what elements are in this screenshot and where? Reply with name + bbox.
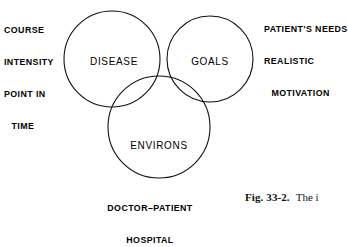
annotation-right-line-3: MOTIVATION: [264, 88, 348, 99]
annotation-left-line-2: INTENSITY: [4, 57, 54, 68]
annotation-right-line-1: PATIENT'S NEEDS: [264, 24, 348, 35]
annotation-left-line-3: POINT IN: [4, 89, 54, 100]
annotation-bottom-line-2: HOSPITAL: [91, 235, 208, 246]
annotation-bottom: DOCTOR–PATIENT HOSPITAL: [91, 182, 208, 247]
circle-label-disease: DISEASE: [90, 55, 138, 67]
figure-caption: Fig. 33-2.The i: [245, 191, 319, 204]
annotation-right: PATIENT'S NEEDS REALISTIC MOTIVATION: [264, 3, 348, 120]
circle-label-goals: GOALS: [191, 55, 229, 67]
annotation-left-line-4: TIME: [4, 121, 54, 132]
circle-environs: [108, 76, 210, 178]
annotation-right-line-2: REALISTIC: [264, 56, 348, 67]
annotation-bottom-line-1: DOCTOR–PATIENT: [91, 203, 208, 214]
figure-caption-text: The i: [296, 191, 319, 203]
annotation-left-line-1: COURSE: [4, 25, 54, 36]
figure-caption-number: Fig. 33-2.: [245, 191, 290, 203]
annotation-left: COURSE INTENSITY POINT IN TIME: [4, 4, 54, 152]
circle-label-environs: ENVIRONS: [130, 139, 187, 151]
